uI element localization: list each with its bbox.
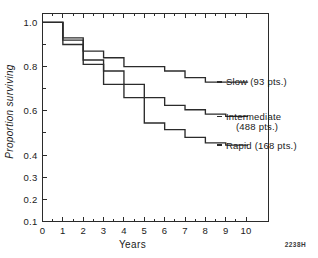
chart-svg: 012345678910 1.00.80.60.40.30.20.1 Slow … — [0, 0, 318, 258]
curve-rapid — [43, 22, 249, 145]
y-tick-label-0.1: 0.1 — [23, 216, 37, 227]
x-tick-label-0: 0 — [40, 225, 46, 236]
y-tick-label-1.0: 1.0 — [23, 17, 37, 28]
x-tick-label-9: 9 — [223, 225, 229, 236]
y-axis-ticks — [43, 22, 48, 221]
y-tick-label-0.6: 0.6 — [23, 105, 37, 116]
survival-curves — [43, 22, 249, 145]
curve-slow — [43, 22, 249, 82]
x-tick-label-10: 10 — [241, 225, 252, 236]
y-tick-label-0.4: 0.4 — [23, 150, 37, 161]
x-tick-label-5: 5 — [142, 225, 148, 236]
x-tick-label-2: 2 — [80, 225, 86, 236]
x-tick-label-7: 7 — [182, 225, 188, 236]
legend-label-rapid: Rapid (168 pts.) — [226, 140, 297, 151]
x-tick-label-1: 1 — [60, 225, 66, 236]
legend-label-intermediate-line2: (488 pts.) — [236, 121, 278, 132]
survival-chart-figure: 012345678910 1.00.80.60.40.30.20.1 Slow … — [0, 0, 318, 258]
x-axis-tick-labels: 012345678910 — [40, 225, 252, 236]
legend-label-intermediate: Intermediate — [226, 111, 281, 122]
y-axis-title: Proportion surviving — [4, 64, 15, 159]
y-tick-label-0.8: 0.8 — [23, 61, 37, 72]
chart-legend: Slow (93 pts.)Intermediate(488 pts.)Rapi… — [217, 76, 297, 150]
x-tick-label-6: 6 — [162, 225, 168, 236]
x-tick-label-3: 3 — [101, 225, 107, 236]
legend-label-slow: Slow (93 pts.) — [226, 76, 287, 87]
x-axis-title: Years — [119, 239, 146, 250]
curve-intermediate — [43, 22, 249, 116]
figure-corner-code: 2238H — [285, 241, 306, 248]
y-tick-label-0.3: 0.3 — [23, 172, 37, 183]
x-tick-label-8: 8 — [203, 225, 209, 236]
y-tick-label-0.2: 0.2 — [23, 194, 37, 205]
y-axis-tick-labels: 1.00.80.60.40.30.20.1 — [23, 17, 37, 227]
x-tick-label-4: 4 — [121, 225, 127, 236]
